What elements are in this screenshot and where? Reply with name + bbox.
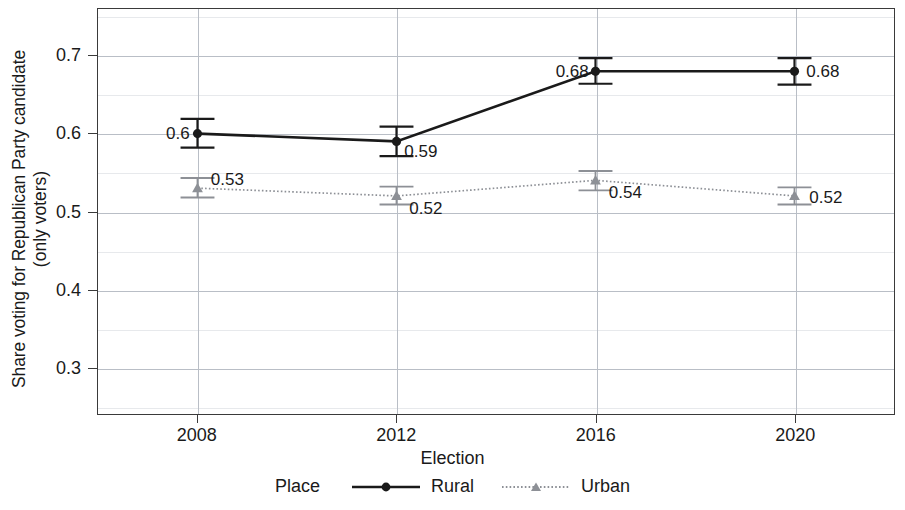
x-tick-mark — [396, 415, 397, 423]
x-tick-mark — [197, 415, 198, 423]
x-tick-label: 2020 — [750, 425, 840, 446]
y-tick-label: 0.4 — [35, 279, 81, 300]
y-tick-mark — [88, 290, 97, 291]
y-tick-label: 0.5 — [35, 201, 81, 222]
x-tick-mark — [596, 415, 597, 423]
line-chart: Share voting for Republican Party candid… — [0, 0, 905, 510]
data-label-layer: 0.60.590.680.680.530.520.540.52 — [98, 9, 894, 414]
y-tick-label: 0.3 — [35, 358, 81, 379]
legend-entry-rural[interactable]: Rural — [350, 476, 474, 497]
x-axis-title: Election — [0, 448, 905, 469]
data-point-label: 0.53 — [211, 170, 244, 190]
data-point-label: 0.52 — [809, 188, 842, 208]
x-tick-mark — [795, 415, 796, 423]
y-axis-ticks: 0.30.40.50.60.7 — [40, 8, 97, 415]
circle-marker-icon — [350, 479, 422, 495]
triangle-marker-icon — [500, 479, 572, 495]
x-tick-label: 2016 — [551, 425, 641, 446]
data-point-label: 0.54 — [609, 183, 642, 203]
data-point-label: 0.68 — [806, 62, 839, 82]
y-tick-label: 0.7 — [35, 44, 81, 65]
data-point-label: 0.68 — [556, 62, 589, 82]
legend-label-urban: Urban — [581, 476, 630, 497]
y-tick-mark — [88, 212, 97, 213]
y-tick-mark — [88, 133, 97, 134]
legend-label-rural: Rural — [431, 476, 474, 497]
data-point-label: 0.59 — [404, 142, 437, 162]
y-tick-label: 0.6 — [35, 123, 81, 144]
plot-area: 0.60.590.680.680.530.520.540.52 — [97, 8, 895, 415]
data-point-label: 0.6 — [166, 124, 190, 144]
y-tick-mark — [88, 55, 97, 56]
x-tick-label: 2012 — [351, 425, 441, 446]
y-axis-title-line1: Share voting for Republican Party candid… — [9, 50, 30, 388]
y-tick-mark — [88, 368, 97, 369]
x-tick-label: 2008 — [152, 425, 242, 446]
data-point-label: 0.52 — [409, 199, 442, 219]
legend-entry-urban[interactable]: Urban — [500, 476, 630, 497]
chart-legend: Place Rural Urban — [0, 476, 905, 497]
legend-title: Place — [275, 476, 320, 497]
